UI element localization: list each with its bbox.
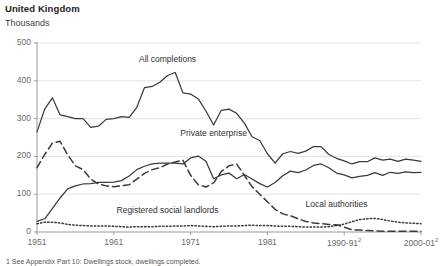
x-axis-label: 1990-912 [309,237,379,248]
series-label: Private enterprise [180,128,247,138]
series-line [37,141,421,231]
x-axis-label: 2000-012 [386,237,443,248]
y-axis-label: 300 [7,113,31,123]
series-label: Registered social landlords [117,205,219,215]
x-axis-label: 1971 [156,237,226,247]
y-axis-label: 200 [7,150,31,160]
y-axis-label: 500 [7,37,31,47]
y-axis-label: 100 [7,188,31,198]
series-line [37,218,421,227]
y-axis-label: 0 [7,226,31,236]
series-label: Local authorities [306,199,368,209]
x-axis-label: 1951 [2,237,72,247]
x-axis-label: 1981 [232,237,302,247]
chart-footnote: 1 See Appendix Part 10: Dwellings stock,… [6,258,201,265]
series-label: All completions [139,54,196,64]
y-axis-label: 400 [7,75,31,85]
x-axis-label: 1961 [79,237,149,247]
